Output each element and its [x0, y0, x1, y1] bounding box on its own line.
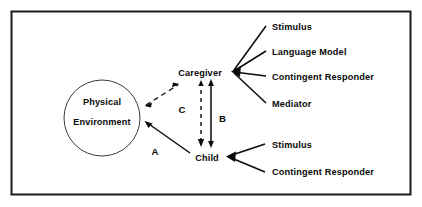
diagram-container: Physical Environment Caregiver Child C A — [0, 0, 422, 207]
child-attribute-connectors — [226, 144, 265, 172]
path-label-a: A — [152, 146, 159, 157]
path-b-arrowhead-caregiver — [208, 79, 214, 86]
relationship-diagram: Physical Environment Caregiver Child C A — [0, 0, 422, 207]
path-c-vertical-arrowhead-child — [198, 139, 204, 147]
environment-label-line2: Environment — [73, 117, 130, 127]
caregiver-connector-stimulus — [234, 26, 266, 70]
path-c-arrowhead-caregiver — [172, 83, 180, 88]
path-label-c: C — [179, 104, 186, 115]
path-c-edge — [145, 83, 180, 108]
path-c-vertical-arrowhead-caregiver — [198, 80, 203, 86]
caregiver-attribute-stimulus: Stimulus — [272, 22, 312, 32]
path-c-vertical-edge — [198, 80, 204, 147]
environment-label-line1: Physical — [83, 97, 121, 107]
path-a-arrowhead-environment — [145, 121, 153, 128]
child-label: Child — [195, 153, 219, 163]
caregiver-attribute-contingent-responder: Contingent Responder — [272, 72, 374, 82]
caregiver-connector-mediator — [234, 73, 266, 103]
path-c-line — [146, 85, 178, 105]
caregiver-attribute-connectors — [231, 26, 266, 103]
child-attribute-stimulus: Stimulus — [272, 140, 312, 150]
path-b-arrowhead-child — [208, 141, 214, 148]
child-fan-arrowhead — [226, 152, 236, 163]
caregiver-label: Caregiver — [178, 68, 222, 78]
child-attribute-contingent-responder: Contingent Responder — [272, 167, 374, 177]
caregiver-attribute-mediator: Mediator — [272, 99, 312, 109]
caregiver-attribute-language-model: Language Model — [272, 47, 347, 57]
path-label-b: B — [219, 113, 226, 124]
path-b-edge — [208, 79, 214, 148]
